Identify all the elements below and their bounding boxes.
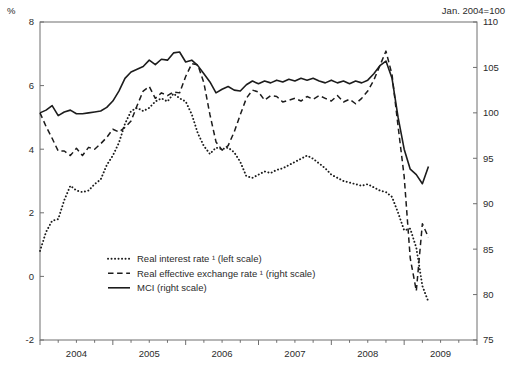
series-layer xyxy=(40,51,428,302)
right-axis-tick-label: 95 xyxy=(483,153,494,164)
right-axis-tick-label: 100 xyxy=(483,107,499,118)
x-axis-tick-label: 2006 xyxy=(212,348,233,359)
x-axis-tick-label: 2009 xyxy=(430,348,451,359)
x-axis-tick-label: 2004 xyxy=(66,348,87,359)
legend-label-1: Real effective exchange rate ¹ (right sc… xyxy=(137,268,315,279)
right-axis-tick-label: 85 xyxy=(483,244,494,255)
right-axis-tick-label: 110 xyxy=(483,16,498,27)
x-axis-ticks xyxy=(40,340,477,345)
line-chart: % Jan. 2004=100 86420-2 1101051009590858… xyxy=(0,0,516,374)
left-axis-labels: 86420-2 xyxy=(26,16,34,345)
chart-legend: Real interest rate ¹ (left scale)Real ef… xyxy=(108,253,315,293)
right-axis-tick-label: 80 xyxy=(483,289,494,300)
right-axis-labels: 1101051009590858075 xyxy=(483,16,499,345)
left-axis-tick-label: 4 xyxy=(29,144,34,155)
left-axis-tick-label: 6 xyxy=(29,80,34,91)
left-axis-tick-label: 8 xyxy=(29,16,34,27)
left-axis-ticks xyxy=(40,22,44,340)
x-axis-tick-label: 2005 xyxy=(139,348,160,359)
x-axis-labels: 200420052006200720082009 xyxy=(66,348,451,359)
left-axis-tick-label: -2 xyxy=(26,334,34,345)
x-axis-tick-label: 2008 xyxy=(357,348,378,359)
series-line-2 xyxy=(40,52,428,184)
legend-label-0: Real interest rate ¹ (left scale) xyxy=(137,253,262,264)
right-axis-ticks xyxy=(473,22,477,340)
left-axis-unit-label: % xyxy=(7,5,16,16)
x-axis-tick-label: 2007 xyxy=(284,348,305,359)
left-axis-tick-label: 2 xyxy=(29,207,34,218)
legend-label-2: MCI (right scale) xyxy=(137,282,207,293)
left-axis-tick-label: 0 xyxy=(29,271,34,282)
right-axis-tick-label: 90 xyxy=(483,198,494,209)
right-axis-tick-label: 75 xyxy=(483,334,494,345)
plot-frame xyxy=(40,22,477,340)
right-axis-tick-label: 105 xyxy=(483,62,499,73)
right-axis-index-note: Jan. 2004=100 xyxy=(442,5,505,16)
chart-figure: % Jan. 2004=100 86420-2 1101051009590858… xyxy=(0,0,516,374)
